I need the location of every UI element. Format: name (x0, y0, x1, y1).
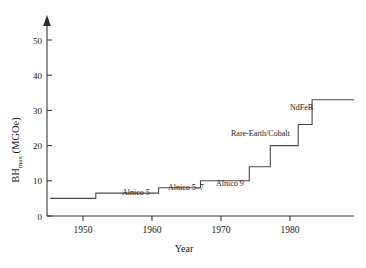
x-tick-label-1980: 1980 (281, 225, 300, 235)
annotation-alnico-5: Alnico 5 (122, 188, 150, 197)
svg-text:BHmax (MGOe): BHmax (MGOe) (10, 117, 24, 183)
chart-figure: 0 10 20 30 40 50 1950 1960 1970 1980 Yea… (0, 0, 366, 268)
annotation-rare-earth-cobalt: Rare-Earth/Cobalt (231, 129, 290, 138)
y-tick-label-50: 50 (33, 36, 43, 46)
y-tick-label-30: 30 (33, 106, 43, 116)
y-axis (43, 15, 51, 216)
x-axis-title: Year (175, 243, 194, 254)
y-axis-title-main: BH (10, 168, 21, 183)
y-tick-label-40: 40 (33, 71, 43, 81)
annotation-alnico-9: Alnico 9 (216, 179, 244, 188)
y-axis-title-unit-text: (MGOe) (10, 117, 22, 154)
y-tick-group (47, 40, 52, 216)
x-tick-group (83, 216, 290, 221)
annotation-ndfeb: NdFeB (290, 103, 313, 112)
x-tick-label-1960: 1960 (143, 225, 162, 235)
annotation-alnico-5-7: Alnico 5–7 (168, 183, 204, 192)
chart-canvas: 0 10 20 30 40 50 1950 1960 1970 1980 Yea… (0, 0, 366, 268)
y-axis-arrowhead (43, 15, 51, 26)
x-tick-label-1950: 1950 (74, 225, 93, 235)
y-axis-title: BHmax (MGOe) (10, 117, 24, 183)
y-tick-label-20: 20 (33, 141, 43, 151)
series-annotations: Alnico 5 Alnico 5–7 Alnico 9 Rare-Earth/… (122, 103, 313, 197)
x-tick-labels: 1950 1960 1970 1980 (74, 225, 300, 235)
y-tick-label-0: 0 (38, 212, 43, 222)
x-tick-label-1970: 1970 (212, 225, 231, 235)
y-axis-title-sub: max (16, 156, 24, 169)
y-tick-label-10: 10 (33, 176, 43, 186)
y-tick-labels: 0 10 20 30 40 50 (33, 36, 43, 222)
